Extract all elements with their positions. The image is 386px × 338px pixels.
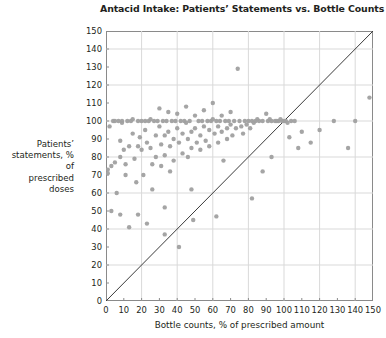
data-point (234, 126, 238, 130)
data-point (180, 151, 184, 155)
x-tick-label: 150 (360, 306, 386, 314)
data-point (287, 135, 291, 139)
data-point (221, 158, 225, 162)
data-point (239, 124, 243, 128)
data-point (212, 131, 216, 135)
data-point (228, 122, 232, 126)
data-point (189, 187, 193, 191)
data-point (177, 140, 181, 144)
data-point (198, 148, 202, 152)
y-tick-label: 120 (78, 81, 102, 89)
data-point (260, 119, 264, 123)
y-tick-label: 40 (78, 225, 102, 233)
data-point (109, 209, 113, 213)
data-point (171, 137, 175, 141)
data-point (207, 144, 211, 148)
y-tick-label: 0 (78, 297, 102, 305)
data-series-patients (106, 67, 372, 250)
data-point (332, 119, 336, 123)
data-point (168, 169, 172, 173)
y-axis-title: Patients’statements, % ofprescribed dose… (2, 139, 74, 195)
data-point (136, 212, 140, 216)
data-point (118, 139, 122, 143)
data-point (163, 153, 167, 157)
y-tick-label: 50 (78, 207, 102, 215)
data-point (159, 142, 163, 146)
data-point (232, 119, 236, 123)
data-point (154, 155, 158, 159)
data-point (220, 130, 224, 134)
data-point (317, 128, 321, 132)
data-point (141, 173, 145, 177)
data-point (163, 133, 167, 137)
data-point (191, 218, 195, 222)
data-point (220, 113, 224, 117)
data-point (171, 158, 175, 162)
y-tick-label: 110 (78, 99, 102, 107)
data-point (139, 148, 143, 152)
data-point (189, 146, 193, 150)
data-point (150, 187, 154, 191)
y-tick-label: 140 (78, 45, 102, 53)
data-point (150, 162, 154, 166)
data-point (367, 95, 371, 99)
data-point (260, 169, 264, 173)
plot-area (106, 31, 373, 301)
data-point (202, 124, 206, 128)
data-point (166, 130, 170, 134)
data-point (180, 131, 184, 135)
data-point (186, 155, 190, 159)
data-point (159, 164, 163, 168)
data-point (175, 126, 179, 130)
data-point (228, 110, 232, 114)
data-point (173, 119, 177, 123)
data-point (236, 67, 240, 71)
data-point (148, 146, 152, 150)
data-point (166, 110, 170, 114)
data-point (269, 155, 273, 159)
y-tick-label: 10 (78, 279, 102, 287)
data-point (200, 119, 204, 123)
data-point (118, 212, 122, 216)
data-point (157, 106, 161, 110)
data-point (120, 121, 124, 125)
data-point (237, 119, 241, 123)
data-point (114, 191, 118, 195)
x-axis-title: Bottle counts, % of prescribed amount (106, 320, 373, 330)
data-point (202, 108, 206, 112)
data-point (216, 140, 220, 144)
data-point (163, 232, 167, 236)
data-point (131, 117, 135, 121)
y-tick-label: 20 (78, 261, 102, 269)
data-point (198, 133, 202, 137)
data-point (300, 130, 304, 134)
data-point (186, 137, 190, 141)
data-point (207, 128, 211, 132)
data-point (218, 119, 222, 123)
y-tick-label: 150 (78, 27, 102, 35)
data-point (296, 146, 300, 150)
data-point (134, 180, 138, 184)
data-point (187, 119, 191, 123)
data-point (138, 135, 142, 139)
y-tick-label: 70 (78, 171, 102, 179)
chart-title: Antacid Intake: Patients’ Statements vs.… (100, 3, 378, 14)
data-point (143, 128, 147, 132)
data-point (123, 162, 127, 166)
data-point (241, 131, 245, 135)
data-point (127, 225, 131, 229)
data-point (107, 124, 111, 128)
data-point (154, 133, 158, 137)
data-point (250, 196, 254, 200)
data-point (106, 171, 110, 175)
data-point (109, 164, 113, 168)
data-point (145, 140, 149, 144)
data-point (177, 245, 181, 249)
data-point (309, 140, 313, 144)
data-point (292, 119, 296, 123)
y-axis-tick-labels: 0102030405060708090100110120130140150 (76, 31, 102, 301)
data-point (118, 155, 122, 159)
data-point (123, 173, 127, 177)
identity-reference-line (106, 31, 373, 301)
